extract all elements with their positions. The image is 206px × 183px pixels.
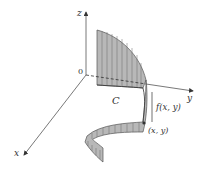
y-axis bbox=[146, 84, 193, 91]
curve-c bbox=[97, 85, 145, 122]
x-axis-label: x bbox=[14, 148, 19, 158]
x-axis bbox=[24, 75, 86, 155]
point-marker bbox=[142, 121, 145, 124]
line-integral-surface-diagram: z 0 y x C f(x, y) (x, y) bbox=[0, 0, 206, 183]
surface-lower-sheet bbox=[85, 80, 147, 162]
diagram-svg: z 0 y x C f(x, y) (x, y) bbox=[0, 0, 206, 183]
y-axis-label: y bbox=[186, 93, 193, 103]
point-label: (x, y) bbox=[148, 126, 168, 135]
origin-label: 0 bbox=[78, 67, 83, 76]
surface-upper-sheet bbox=[97, 30, 146, 88]
curve-label: C bbox=[112, 95, 120, 106]
z-axis-label: z bbox=[76, 8, 82, 18]
height-label: f(x, y) bbox=[155, 102, 181, 112]
